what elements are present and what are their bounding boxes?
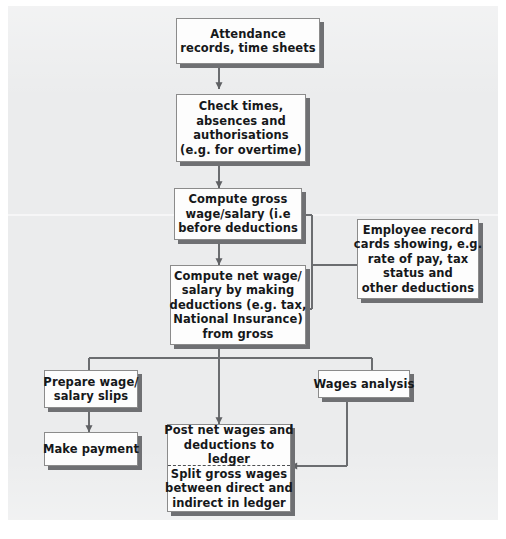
- employee-records-line-5: other deductions: [362, 281, 474, 296]
- prepare-slips-line-1: Prepare wage/: [43, 375, 138, 390]
- post-ledger-bottom-line-3: indirect in ledger: [172, 496, 286, 511]
- check-times-line-1: Check times,: [199, 99, 284, 114]
- compute-gross-line-1: Compute gross: [189, 192, 288, 207]
- employee-record-cards-node[interactable]: Employee record cards showing, e.g. rate…: [357, 219, 479, 299]
- employee-records-line-4: status and: [383, 266, 453, 281]
- compute-net-line-3: deductions (e.g. tax,: [170, 298, 307, 313]
- check-times-line-3: authorisations: [193, 128, 289, 143]
- check-times-node[interactable]: Check times, absences and authorisations…: [176, 94, 306, 162]
- wages-analysis-line-1: Wages analysis: [313, 377, 414, 392]
- compute-gross-line-2: wage/salary (i.e: [185, 207, 290, 222]
- compute-net-line-1: Compute net wage/: [174, 269, 302, 284]
- post-ledger-top-line-1: Post net wages and: [164, 423, 293, 438]
- make-payment-node[interactable]: Make payment: [44, 432, 138, 466]
- wages-analysis-node[interactable]: Wages analysis: [318, 370, 410, 398]
- employee-records-line-1: Employee record: [363, 223, 474, 238]
- attendance-records-node[interactable]: Attendance records, time sheets: [176, 18, 320, 64]
- flowchart-page: Attendance records, time sheets Check ti…: [0, 0, 506, 539]
- check-times-line-2: absences and: [196, 114, 286, 129]
- prepare-wage-slips-node[interactable]: Prepare wage/ salary slips: [44, 370, 138, 408]
- compute-net-line-2: salary by making: [182, 283, 295, 298]
- post-ledger-top-line-3: ledger: [208, 452, 250, 467]
- post-ledger-bottom-line-2: between direct and: [165, 481, 293, 496]
- compute-gross-line-3: before deductions: [178, 221, 298, 236]
- post-to-ledger-bottom-cell: Split gross wages between direct and ind…: [168, 466, 290, 511]
- attendance-records-line-2: records, time sheets: [180, 41, 316, 56]
- post-to-ledger-node[interactable]: Post net wages and deductions to ledger …: [167, 424, 291, 512]
- make-payment-line-1: Make payment: [43, 442, 139, 457]
- compute-net-node[interactable]: Compute net wage/ salary by making deduc…: [170, 265, 306, 345]
- prepare-slips-line-2: salary slips: [54, 389, 128, 404]
- check-times-line-4: (e.g. for overtime): [180, 143, 302, 158]
- compute-net-line-5: from gross: [202, 327, 273, 342]
- employee-records-line-2: cards showing, e.g.: [354, 237, 482, 252]
- compute-gross-node[interactable]: Compute gross wage/salary (i.e before de…: [174, 188, 302, 240]
- compute-net-line-4: National Insurance): [173, 312, 303, 327]
- employee-records-line-3: rate of pay, tax: [368, 252, 469, 267]
- attendance-records-line-1: Attendance: [210, 27, 286, 42]
- post-ledger-bottom-line-1: Split gross wages: [171, 467, 287, 482]
- post-ledger-top-line-2: deductions to: [184, 438, 274, 453]
- post-to-ledger-top-cell: Post net wages and deductions to ledger: [168, 425, 290, 466]
